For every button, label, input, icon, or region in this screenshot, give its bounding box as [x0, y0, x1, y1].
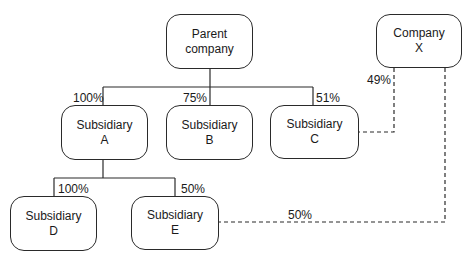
edge-label-parent-c: 51% — [316, 92, 340, 104]
node-label: company — [185, 42, 234, 57]
edge-label-parent-a: 100% — [73, 92, 104, 104]
node-subsidiary-d: Subsidiary D — [10, 196, 97, 251]
node-label: B — [205, 133, 213, 148]
node-label: Subsidiary — [181, 118, 237, 133]
edge-label-a-e: 50% — [181, 183, 205, 195]
node-label: Company — [393, 26, 444, 41]
node-subsidiary-e: Subsidiary E — [131, 196, 219, 250]
edge-label-parent-b: 75% — [183, 92, 207, 104]
node-subsidiary-b: Subsidiary B — [166, 105, 253, 160]
node-label: Subsidiary — [76, 118, 132, 133]
node-label: C — [310, 132, 319, 147]
node-label: Subsidiary — [25, 209, 81, 224]
node-label: X — [415, 41, 423, 56]
node-label: Parent — [192, 27, 227, 42]
node-label: D — [49, 224, 58, 239]
node-label: E — [171, 223, 179, 238]
node-label: Subsidiary — [286, 117, 342, 132]
node-company-x: Company X — [376, 14, 462, 68]
node-label: A — [100, 133, 108, 148]
node-subsidiary-c: Subsidiary C — [270, 105, 359, 159]
edge-label-x-c: 49% — [367, 74, 391, 86]
edge-label-a-d: 100% — [58, 183, 89, 195]
edge-label-x-e: 50% — [288, 209, 312, 221]
node-parent-company: Parent company — [166, 14, 253, 69]
node-label: Subsidiary — [147, 208, 203, 223]
node-subsidiary-a: Subsidiary A — [61, 105, 148, 160]
